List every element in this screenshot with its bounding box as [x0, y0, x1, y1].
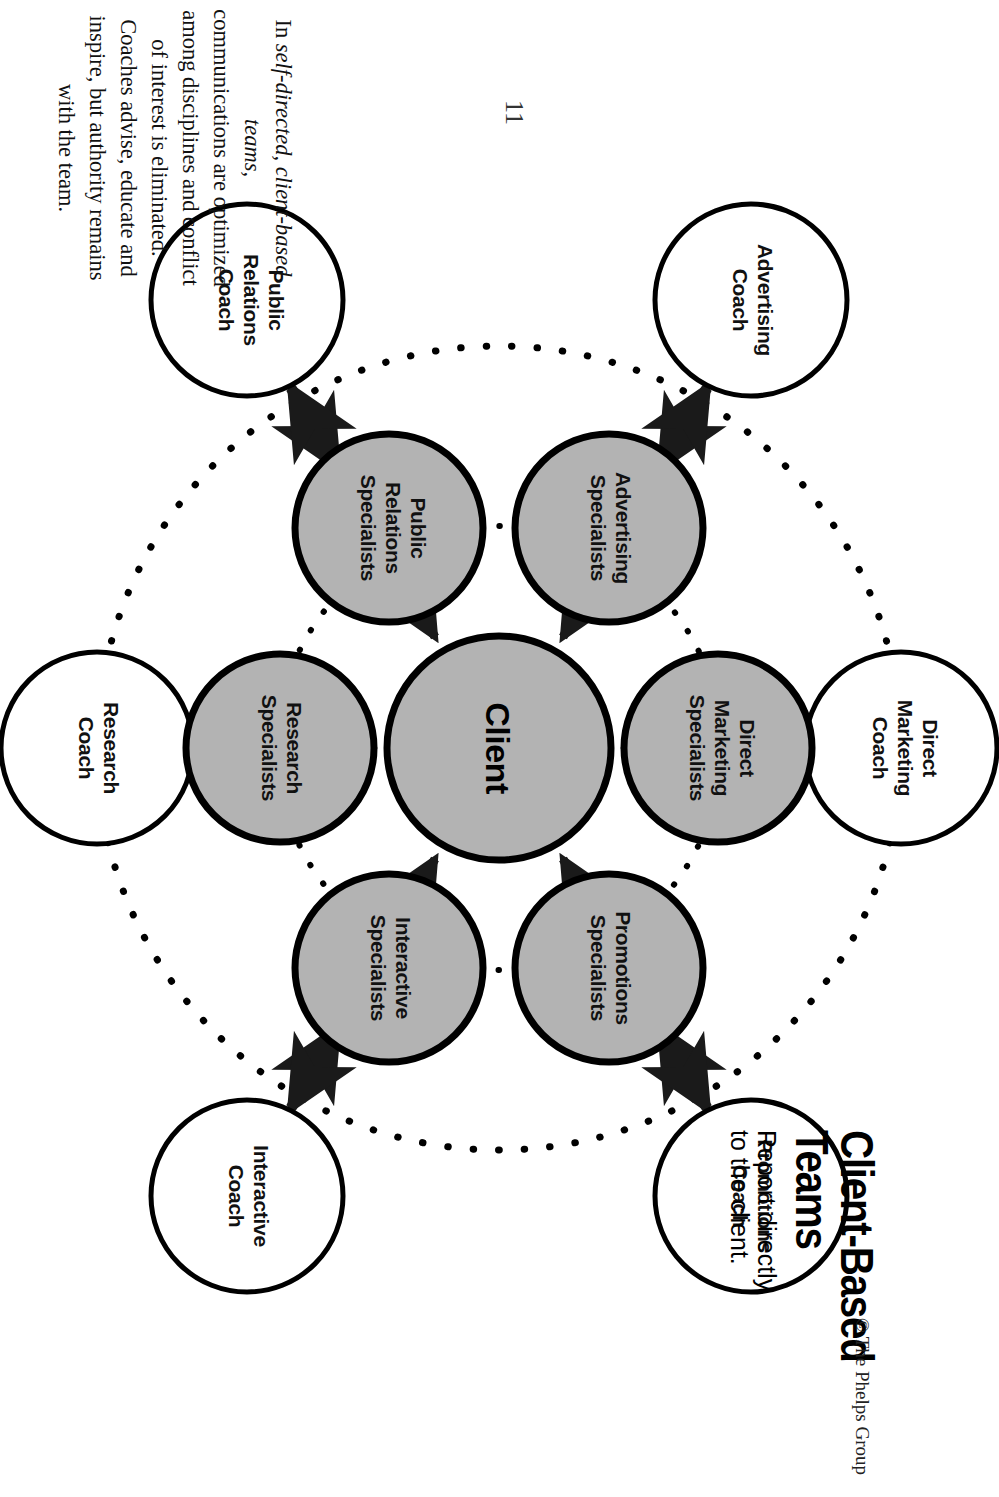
- caption-line-5: Coaches advise, educate and: [113, 8, 144, 288]
- caption-line-3: among disciplines and conflict: [175, 8, 206, 288]
- label-interactive-specialists-line2: Specialists: [367, 915, 390, 1021]
- node-advertising-specialists[interactable]: Advertising Specialists: [515, 434, 703, 622]
- label-dm-specialists-line2: Marketing: [711, 700, 734, 797]
- node-advertising-coach[interactable]: Advertising Coach: [655, 204, 847, 396]
- label-promotions-specialists-line1: Promotions: [612, 911, 635, 1025]
- diagram-caption: In self-directed, client-based teams, co…: [51, 8, 299, 288]
- label-advertising-coach-line1: Advertising: [754, 244, 777, 356]
- node-direct-marketing-specialists[interactable]: Direct Marketing Specialists: [624, 654, 812, 842]
- node-interactive-coach[interactable]: Interactive Coach: [151, 1100, 343, 1292]
- label-dm-specialists-line1: Direct: [736, 719, 759, 777]
- copyright-notice: © The Phelps Group: [851, 1318, 873, 1475]
- label-research-specialists-line1: Research: [283, 702, 306, 794]
- label-direct-marketing-coach-line1: Direct: [919, 719, 942, 777]
- label-ad-specialists-line2: Specialists: [587, 475, 610, 581]
- caption-line-6: inspire, but authority remains: [82, 8, 113, 288]
- label-client: Client: [479, 702, 517, 794]
- node-interactive-specialists[interactable]: Interactive Specialists: [295, 874, 483, 1062]
- client-based-teams-diagram: Direct Marketing Coach Promotions Coach …: [0, 0, 999, 1497]
- scanned-page-canvas: Direct Marketing Coach Promotions Coach …: [0, 0, 999, 1497]
- caption-line-7: with the team.: [51, 8, 82, 288]
- label-pr-specialists-line2: Relations: [382, 482, 405, 574]
- page-number: 11: [499, 100, 529, 125]
- label-dm-specialists-line3: Specialists: [686, 695, 709, 801]
- page-subtitle: Report directly to the client.: [726, 1130, 780, 1460]
- label-advertising-coach-line2: Coach: [729, 269, 752, 332]
- label-interactive-coach-line2: Coach: [225, 1165, 248, 1228]
- node-public-relations-specialists[interactable]: Public Relations Specialists: [295, 434, 483, 622]
- caption-line-2: communications are optimized: [206, 8, 237, 288]
- label-interactive-coach-line1: Interactive: [250, 1145, 273, 1247]
- node-client[interactable]: Client: [387, 636, 611, 860]
- caption-line1-italic: self-directed, client-based teams,: [240, 44, 296, 277]
- label-pr-specialists-line3: Specialists: [357, 475, 380, 581]
- label-direct-marketing-coach-line2: Marketing: [894, 700, 917, 797]
- node-direct-marketing-coach[interactable]: Direct Marketing Coach: [805, 652, 997, 844]
- caption-line-1: In self-directed, client-based teams,: [237, 8, 299, 288]
- caption-line1-prefix: In: [271, 19, 296, 43]
- node-promotions-specialists[interactable]: Promotions Specialists: [515, 874, 703, 1062]
- label-interactive-specialists-line1: Interactive: [392, 917, 415, 1019]
- caption-line-4: of interest is eliminated.: [144, 8, 175, 288]
- label-ad-specialists-line1: Advertising: [612, 472, 635, 584]
- node-research-coach[interactable]: Research Coach: [1, 652, 193, 844]
- label-research-coach-line2: Coach: [75, 717, 98, 780]
- node-research-specialists[interactable]: Research Specialists: [186, 654, 374, 842]
- label-pr-specialists-line1: Public: [407, 497, 430, 559]
- label-research-specialists-line2: Specialists: [258, 695, 281, 801]
- label-promotions-specialists-line2: Specialists: [587, 915, 610, 1021]
- label-direct-marketing-coach-line3: Coach: [869, 717, 892, 780]
- label-research-coach-line1: Research: [100, 702, 123, 794]
